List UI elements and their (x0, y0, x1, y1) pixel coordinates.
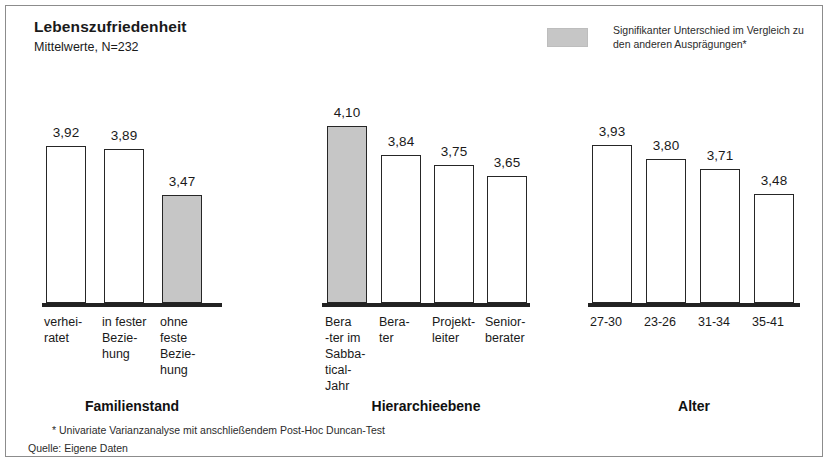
bar (754, 194, 794, 303)
bar-value-label: 3,93 (584, 124, 640, 139)
bar (487, 176, 527, 303)
group-title: Hierarchieebene (316, 398, 536, 414)
category-label: in fester Bezie- hung (102, 314, 164, 362)
category-label: ohne feste Bezie- hung (160, 314, 222, 378)
axis-baseline (588, 303, 800, 307)
chart-figure: Lebenszufriedenheit Mittelwerte, N=232 S… (0, 0, 831, 466)
bar-value-label: 3,89 (96, 128, 152, 143)
bar-value-label: 3,75 (426, 144, 482, 159)
bar (592, 145, 632, 303)
bar-value-label: 3,48 (746, 173, 802, 188)
bar-value-label: 3,84 (373, 134, 429, 149)
bar-value-label: 3,92 (38, 125, 94, 140)
category-label: 27-30 (590, 314, 652, 330)
bar (162, 195, 202, 303)
category-label: 23-26 (644, 314, 706, 330)
bar (327, 126, 367, 303)
page-title: Lebenszufriedenheit (34, 18, 187, 36)
category-label: 31-34 (698, 314, 760, 330)
bar (381, 155, 421, 303)
bar (646, 159, 686, 303)
group-title: Familienstand (22, 398, 242, 414)
bar-value-label: 3,80 (638, 138, 694, 153)
bar-value-label: 3,65 (479, 155, 535, 170)
bar-value-label: 3,71 (692, 148, 748, 163)
axis-baseline (42, 303, 222, 307)
legend-label: Signifikanter Unterschied im Vergleich z… (613, 24, 823, 51)
chart-subtitle: Mittelwerte, N=232 (34, 40, 139, 54)
bar (434, 165, 474, 303)
group-title: Alter (584, 398, 804, 414)
category-label: 35-41 (752, 314, 814, 330)
axis-baseline (322, 303, 530, 307)
bar (700, 169, 740, 303)
bar-value-label: 3,47 (154, 174, 210, 189)
category-label: verhei- ratet (44, 314, 106, 346)
footnote-text: * Univariate Varianzanalyse mit anschlie… (52, 424, 385, 436)
bar (46, 146, 86, 303)
category-label: Senior- berater (485, 314, 547, 346)
bar-value-label: 4,10 (319, 105, 375, 120)
legend-swatch-significant (547, 28, 588, 47)
source-text: Quelle: Eigene Daten (28, 442, 128, 454)
bar (104, 149, 144, 303)
category-label: Bera -ter im Sabba- tical- Jahr (325, 314, 387, 394)
